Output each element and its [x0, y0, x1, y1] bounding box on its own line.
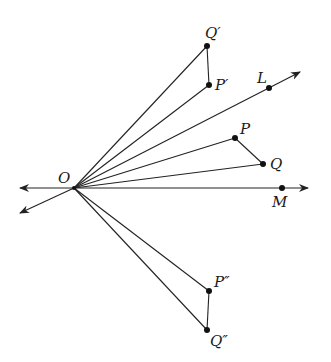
point-o [72, 186, 76, 190]
point-p2 [206, 288, 212, 294]
label-q: Q [270, 155, 282, 173]
segment-o-q2 [74, 188, 207, 330]
point-p [232, 135, 238, 141]
diagram-canvas: O Q′ P′ L P Q M P″ Q″ [0, 0, 331, 362]
label-q1: Q′ [205, 24, 221, 42]
segment-q1-p1 [207, 46, 209, 85]
ray-ol [74, 72, 300, 188]
diagram-svg: O Q′ P′ L P Q M P″ Q″ [0, 0, 331, 362]
label-p2: P″ [213, 273, 230, 291]
segment-o-q1 [74, 46, 207, 188]
segment-o-q [74, 164, 263, 188]
segment-o-p1 [74, 85, 209, 188]
ray-ol-extension [20, 188, 74, 213]
label-q2: Q″ [210, 332, 228, 350]
segment-o-p2 [74, 188, 209, 291]
segment-p2-q2 [207, 291, 209, 330]
label-o: O [58, 169, 70, 187]
point-p1 [206, 82, 212, 88]
segment-p-q [235, 138, 263, 164]
label-m: M [271, 193, 288, 211]
label-p1: P′ [214, 76, 229, 94]
point-q [260, 161, 266, 167]
label-p: P [239, 120, 251, 138]
label-l: L [256, 69, 267, 87]
point-q1 [204, 43, 210, 49]
point-m [279, 185, 285, 191]
